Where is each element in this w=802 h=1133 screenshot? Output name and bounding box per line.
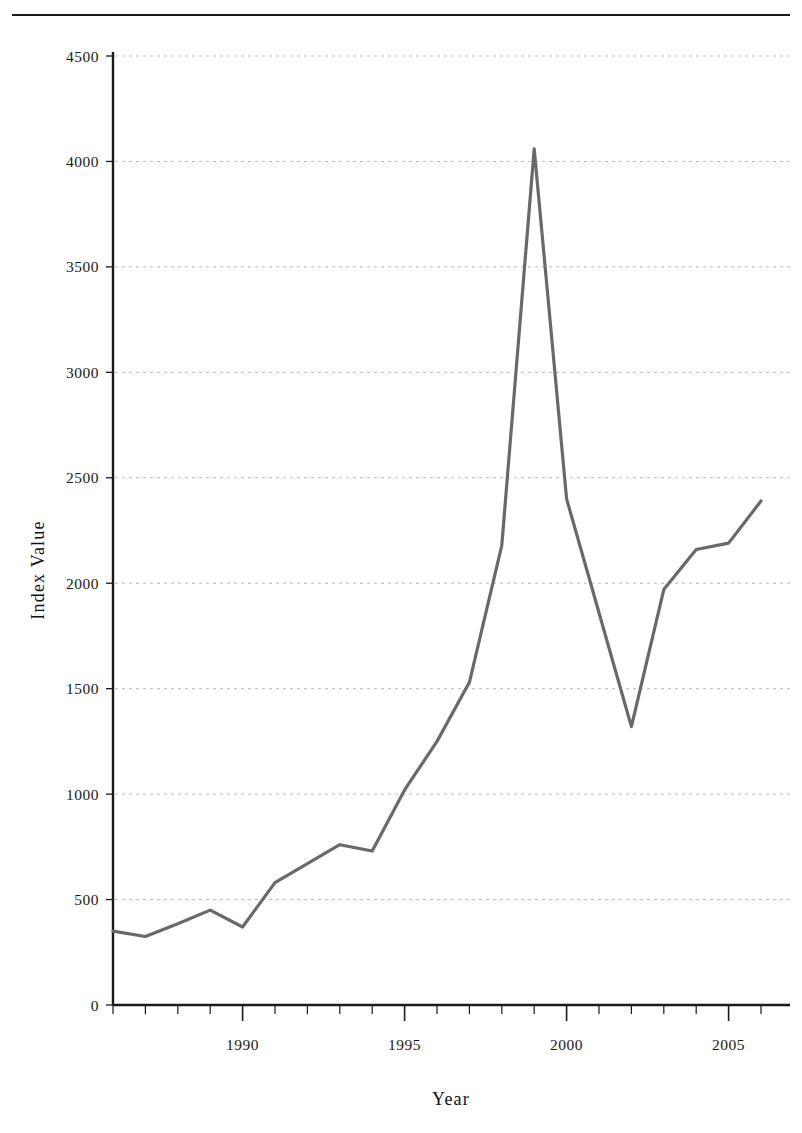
y-axis-tick-label: 3000 [66,364,99,381]
y-axis-tick-label: 3500 [66,258,99,275]
y-axis-tick-label: 2500 [66,469,99,486]
figure-container: 0500100015002000250030003500400045001990… [0,0,802,1133]
axes-group [113,52,790,1005]
line-chart: 0500100015002000250030003500400045001990… [0,0,802,1133]
y-axis-tick-label: 0 [91,997,99,1014]
y-axis-tick-label: 500 [74,891,99,908]
x-axis-tick-label: 1990 [226,1036,259,1053]
y-axis-tick-label: 1500 [66,680,99,697]
x-axis-tick-label: 2005 [712,1036,745,1053]
tick-labels-group: 0500100015002000250030003500400045001990… [66,48,745,1054]
x-axis-tick-label: 2000 [550,1036,583,1053]
y-axis-title: Index Value [28,520,48,619]
x-axis-tick-label: 1995 [388,1036,421,1053]
y-axis-tick-label: 4000 [66,153,99,170]
y-axis-tick-label: 1000 [66,786,99,803]
y-axis-tick-label: 2000 [66,575,99,592]
x-axis-title: Year [432,1089,470,1109]
x-axis-ticks-group [113,1005,761,1021]
gridlines-group [115,56,790,900]
y-axis-tick-label: 4500 [66,48,99,65]
